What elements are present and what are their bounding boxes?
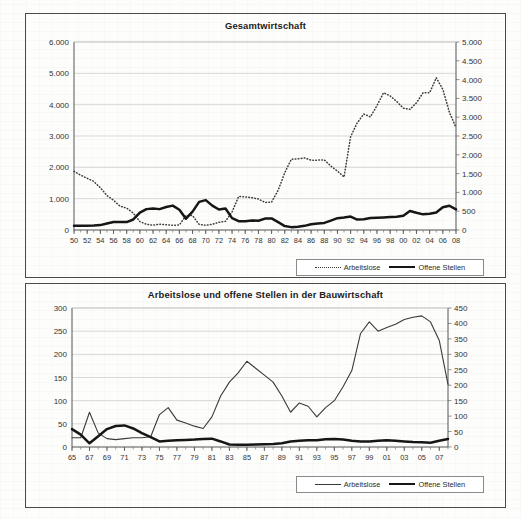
x-axis-tick: 86 xyxy=(307,236,315,245)
x-axis-tick: 89 xyxy=(278,453,286,462)
y-axis-tick-right: 1.000 xyxy=(462,188,483,197)
legend-top: Arbeitslose Offene Stellen xyxy=(296,259,484,276)
y-axis-tick-right: 200 xyxy=(454,381,468,390)
legend-swatch-thick-icon xyxy=(389,264,415,271)
x-axis-tick: 05 xyxy=(418,453,426,462)
y-axis-tick-right: 150 xyxy=(454,397,468,406)
x-axis-tick: 76 xyxy=(241,236,249,245)
y-axis-tick-right: 400 xyxy=(454,319,468,328)
x-axis-tick: 69 xyxy=(103,453,111,462)
x-axis-tick: 90 xyxy=(333,236,341,245)
y-axis-tick-right: 0 xyxy=(454,443,459,452)
y-axis-tick-right: 0 xyxy=(462,226,467,235)
y-axis-tick-left: 6.000 xyxy=(49,38,70,47)
x-axis-tick: 72 xyxy=(215,236,223,245)
x-axis-tick: 50 xyxy=(70,236,78,245)
legend-swatch-dotted-icon xyxy=(315,264,341,271)
chart-bottom-plot: 0501001502002503000501001502002503003504… xyxy=(26,284,505,507)
y-axis-tick-right: 100 xyxy=(454,412,468,421)
x-axis-tick: 80 xyxy=(267,236,275,245)
x-axis-tick: 03 xyxy=(400,453,408,462)
legend-swatch-thick-icon-2 xyxy=(389,481,415,488)
series-line-offene-stellen xyxy=(72,425,448,444)
y-axis-tick-right: 2.000 xyxy=(462,151,483,160)
x-axis-tick: 64 xyxy=(162,236,170,245)
x-axis-tick: 88 xyxy=(320,236,328,245)
x-axis-tick: 82 xyxy=(281,236,289,245)
y-axis-tick-right: 2.500 xyxy=(462,132,483,141)
y-axis-tick-left: 3.000 xyxy=(49,132,70,141)
legend-label-arbeitslose-top: Arbeitslose xyxy=(344,263,381,272)
y-axis-tick-left: 100 xyxy=(54,397,68,406)
y-axis-tick-right: 5.000 xyxy=(462,38,483,47)
series-line-arbeitslose xyxy=(74,78,456,226)
x-axis-tick: 67 xyxy=(85,453,93,462)
x-axis-tick: 91 xyxy=(295,453,303,462)
x-axis-tick: 52 xyxy=(83,236,91,245)
x-axis-tick: 71 xyxy=(120,453,128,462)
y-axis-tick-left: 5.000 xyxy=(49,69,70,78)
chart-top-plot: 01.0002.0003.0004.0005.0006.00005001.000… xyxy=(26,14,505,277)
x-axis-tick: 70 xyxy=(202,236,210,245)
y-axis-tick-right: 50 xyxy=(454,428,463,437)
series-line-offene-stellen xyxy=(74,200,456,227)
x-axis-tick: 01 xyxy=(383,453,391,462)
legend-bottom: Arbeitslose Offene Stellen xyxy=(296,476,484,493)
x-axis-tick: 66 xyxy=(175,236,183,245)
y-axis-tick-right: 3.500 xyxy=(462,94,483,103)
x-axis-tick: 85 xyxy=(243,453,251,462)
x-axis-tick: 75 xyxy=(155,453,163,462)
x-axis-tick: 97 xyxy=(348,453,356,462)
x-axis-tick: 94 xyxy=(360,236,368,245)
x-axis-tick: 62 xyxy=(149,236,157,245)
y-axis-tick-right: 500 xyxy=(462,207,476,216)
legend-swatch-thin-icon xyxy=(315,481,341,488)
x-axis-tick: 07 xyxy=(435,453,443,462)
x-axis-tick: 56 xyxy=(109,236,117,245)
x-axis-tick: 95 xyxy=(330,453,338,462)
x-axis-tick: 83 xyxy=(225,453,233,462)
chart-gesamtwirtschaft: Gesamtwirtschaft 01.0002.0003.0004.0005.… xyxy=(25,13,506,278)
x-axis-tick: 58 xyxy=(123,236,131,245)
x-axis-tick: 08 xyxy=(452,236,460,245)
x-axis-tick: 78 xyxy=(254,236,262,245)
y-axis-tick-right: 350 xyxy=(454,335,468,344)
y-axis-tick-right: 450 xyxy=(454,304,468,313)
x-axis-tick: 00 xyxy=(399,236,407,245)
chart-bottom-svg: 0501001502002503000501001502002503003504… xyxy=(26,284,505,507)
legend-entry-offene-stellen-bottom: Offene Stellen xyxy=(389,480,465,489)
chart-top-svg: 01.0002.0003.0004.0005.0006.00005001.000… xyxy=(26,14,505,277)
legend-label-offene-stellen-top: Offene Stellen xyxy=(418,263,465,272)
y-axis-tick-left: 50 xyxy=(58,420,67,429)
y-axis-tick-right: 4.000 xyxy=(462,76,483,85)
x-axis-tick: 92 xyxy=(347,236,355,245)
chart-bauwirtschaft: Arbeitslose und offene Stellen in der Ba… xyxy=(25,283,506,508)
legend-label-arbeitslose-bottom: Arbeitslose xyxy=(344,480,381,489)
x-axis-tick: 65 xyxy=(68,453,76,462)
x-axis-tick: 99 xyxy=(365,453,373,462)
y-axis-tick-left: 2.000 xyxy=(49,163,70,172)
x-axis-tick: 54 xyxy=(96,236,104,245)
x-axis-tick: 77 xyxy=(173,453,181,462)
y-axis-tick-right: 300 xyxy=(454,350,468,359)
legend-entry-arbeitslose-bottom: Arbeitslose xyxy=(315,480,381,489)
scanned-page: Gesamtwirtschaft 01.0002.0003.0004.0005.… xyxy=(0,0,521,518)
y-axis-tick-left: 250 xyxy=(54,327,68,336)
x-axis-tick: 60 xyxy=(136,236,144,245)
x-axis-tick: 04 xyxy=(426,236,434,245)
x-axis-tick: 06 xyxy=(439,236,447,245)
x-axis-tick: 68 xyxy=(188,236,196,245)
y-axis-tick-left: 300 xyxy=(54,304,68,313)
x-axis-tick: 93 xyxy=(313,453,321,462)
x-axis-tick: 81 xyxy=(208,453,216,462)
legend-entry-offene-stellen-top: Offene Stellen xyxy=(389,263,465,272)
x-axis-tick: 98 xyxy=(386,236,394,245)
x-axis-tick: 87 xyxy=(260,453,268,462)
y-axis-tick-left: 0 xyxy=(65,226,70,235)
x-axis-tick: 96 xyxy=(373,236,381,245)
legend-entry-arbeitslose-top: Arbeitslose xyxy=(315,263,381,272)
y-axis-tick-right: 250 xyxy=(454,366,468,375)
x-axis-tick: 84 xyxy=(294,236,302,245)
x-axis-tick: 79 xyxy=(190,453,198,462)
y-axis-tick-left: 1.000 xyxy=(49,195,70,204)
